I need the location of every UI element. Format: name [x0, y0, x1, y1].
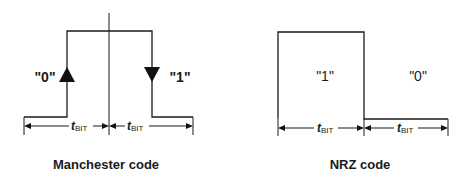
nrz-caption: NRZ code [330, 157, 391, 172]
nrz-diagram: "1" "0" tBIT [278, 32, 448, 172]
manchester-tbit-left-label: tBIT [71, 119, 88, 133]
manchester-period-right-dimension [109, 123, 193, 129]
rising-arrow-icon [59, 67, 75, 82]
manchester-diagram: "0" "1" tBIT tBIT [24, 13, 193, 172]
nrz-bit-0-label: "0" [409, 68, 427, 84]
nrz-tbit-right-label: tBIT [397, 121, 414, 135]
manchester-tbit-right-label: tBIT [127, 119, 144, 133]
manchester-bit-0-label: "0" [34, 69, 55, 85]
encoding-diagram: "0" "1" tBIT tBIT [0, 0, 471, 183]
manchester-caption: Manchester code [53, 157, 159, 172]
manchester-period-left-dimension [24, 123, 109, 129]
nrz-tbit-left-label: tBIT [317, 121, 334, 135]
manchester-bit-1-label: "1" [169, 69, 190, 85]
nrz-bit-1-label: "1" [316, 68, 334, 84]
falling-arrow-icon [144, 67, 160, 82]
